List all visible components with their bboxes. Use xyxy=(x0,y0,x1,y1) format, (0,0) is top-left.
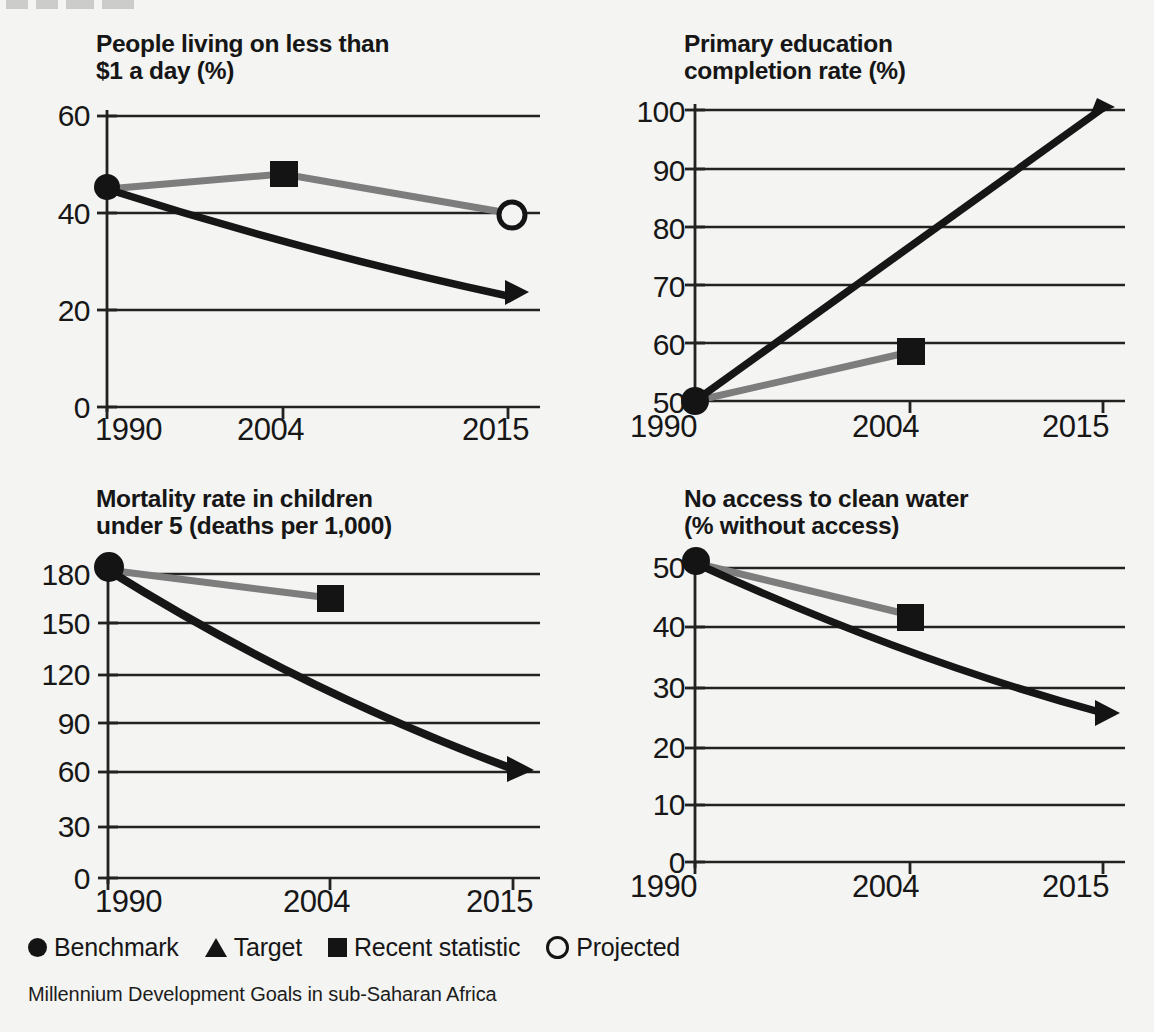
legend-label-projected: Projected xyxy=(576,933,680,962)
marker-benchmark-education xyxy=(681,387,709,415)
series-target-mortality xyxy=(108,570,513,769)
chart-panel-poverty: People living on less than $1 a day (%) … xyxy=(0,0,577,460)
gridlines-poverty xyxy=(107,116,540,407)
marker-projected-poverty xyxy=(499,202,525,228)
legend-label-recent-statistic: Recent statistic xyxy=(354,933,520,962)
marker-target-poverty xyxy=(505,280,529,305)
legend-label-target: Target xyxy=(234,933,302,962)
marker-target-water xyxy=(1095,700,1120,726)
chart-panel-mortality: Mortality rate in children under 5 (deat… xyxy=(0,460,577,920)
marker-benchmark-poverty xyxy=(94,174,120,200)
axis-spine-mortality xyxy=(98,568,513,890)
chart-panel-water: No access to clean water (% without acce… xyxy=(577,460,1154,920)
marker-benchmark-water xyxy=(682,547,710,575)
plot-area-mortality xyxy=(0,460,577,920)
marker-recent-statistic-poverty xyxy=(270,161,298,187)
chart-panel-education: Primary education completion rate (%) 10… xyxy=(577,0,1154,460)
filled-circle-marker-icon xyxy=(28,938,47,957)
series-target-water xyxy=(695,563,1103,713)
plot-svg-poverty xyxy=(0,0,577,460)
filled-triangle-marker-icon xyxy=(205,938,227,957)
infographic-page: People living on less than $1 a day (%) … xyxy=(0,0,1154,1032)
open-circle-marker-icon xyxy=(546,936,569,959)
plot-area-education xyxy=(577,0,1154,460)
gridlines-mortality xyxy=(108,574,540,878)
marker-recent-statistic-education xyxy=(897,338,925,365)
axis-spine-poverty xyxy=(97,110,508,419)
marker-recent-statistic-water xyxy=(897,604,924,631)
marker-benchmark-mortality xyxy=(94,552,124,582)
filled-square-marker-icon xyxy=(328,938,347,957)
legend-item-benchmark: Benchmark xyxy=(28,933,179,962)
legend-label-benchmark: Benchmark xyxy=(54,933,179,962)
plot-svg-education xyxy=(577,0,1154,460)
plot-area-water xyxy=(577,460,1154,920)
marker-recent-statistic-mortality xyxy=(317,585,344,612)
marker-target-mortality xyxy=(507,756,534,782)
chart-legend: Benchmark Target Recent statistic Projec… xyxy=(28,933,680,962)
legend-item-projected: Projected xyxy=(546,933,680,962)
legend-item-target: Target xyxy=(205,933,302,962)
plot-area-poverty xyxy=(0,0,577,460)
marker-target-education xyxy=(1089,98,1115,118)
legend-item-recent-statistic: Recent statistic xyxy=(328,933,520,962)
plot-svg-mortality xyxy=(0,460,577,920)
figure-caption: Millennium Development Goals in sub-Saha… xyxy=(28,983,497,1006)
plot-svg-water xyxy=(577,460,1154,920)
